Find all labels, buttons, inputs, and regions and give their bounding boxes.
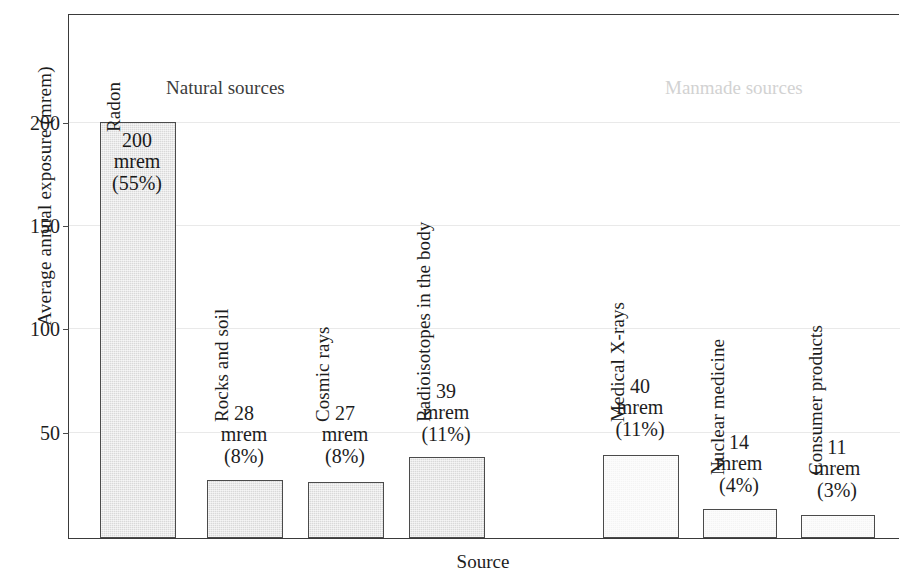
tick-100: [63, 329, 69, 330]
bar-value-pct-radon: (55%): [99, 173, 175, 194]
bar-value-unit-consumer-products: mrem: [800, 458, 874, 479]
bar-cosmic-rays[interactable]: [308, 482, 384, 538]
bar-value-pct-radioisotopes-in-the-body: (11%): [408, 424, 484, 445]
bar-consumer-products[interactable]: [801, 515, 875, 538]
bar-radioisotopes-in-the-body[interactable]: [409, 457, 485, 538]
bar-value-number-consumer-products: 11: [800, 437, 874, 458]
bar-value-radioisotopes-in-the-body: 39 mrem (11%): [408, 381, 484, 445]
x-axis-title: Source: [68, 551, 898, 568]
bar-value-number-radon: 200: [99, 130, 175, 151]
bar-value-cosmic-rays: 27 mrem (8%): [307, 403, 383, 467]
y-tick-label-100: 100: [30, 318, 60, 341]
bar-value-unit-rocks-and-soil: mrem: [206, 424, 282, 445]
tick-200: [63, 123, 69, 124]
group-header-manmade-sources: Manmade sources: [665, 77, 803, 99]
bar-value-pct-cosmic-rays: (8%): [307, 446, 383, 467]
bar-value-number-medical-x-rays: 40: [602, 376, 678, 397]
bar-value-unit-medical-x-rays: mrem: [602, 397, 678, 418]
bar-value-number-radioisotopes-in-the-body: 39: [408, 381, 484, 402]
bar-value-medical-x-rays: 40 mrem (11%): [602, 376, 678, 440]
y-axis-title: Average annual exposure (mrem): [34, 31, 56, 361]
bar-value-pct-medical-x-rays: (11%): [602, 419, 678, 440]
bar-value-rocks-and-soil: 28 mrem (8%): [206, 403, 282, 467]
bar-value-nuclear-medicine: 14 mrem (4%): [702, 432, 776, 496]
tick-50: [63, 433, 69, 434]
gridline-200: 200: [69, 122, 900, 123]
bar-nuclear-medicine[interactable]: [703, 509, 777, 538]
bar-value-number-nuclear-medicine: 14: [702, 432, 776, 453]
y-tick-label-150: 150: [30, 215, 60, 238]
tick-150: [63, 226, 69, 227]
bar-value-pct-rocks-and-soil: (8%): [206, 446, 282, 467]
y-tick-label-200: 200: [30, 112, 60, 135]
bar-label-radon: Radon: [103, 82, 125, 132]
bar-value-consumer-products: 11 mrem (3%): [800, 437, 874, 501]
bar-value-radon: 200 mrem (55%): [99, 130, 175, 194]
bar-medical-x-rays[interactable]: [603, 455, 679, 538]
bar-value-pct-consumer-products: (3%): [800, 480, 874, 501]
bar-value-unit-nuclear-medicine: mrem: [702, 453, 776, 474]
gridline-150: 150: [69, 225, 900, 226]
bar-value-unit-radon: mrem: [99, 151, 175, 172]
bar-value-number-cosmic-rays: 27: [307, 403, 383, 424]
bar-value-unit-cosmic-rays: mrem: [307, 424, 383, 445]
bar-value-pct-nuclear-medicine: (4%): [702, 475, 776, 496]
y-tick-label-50: 50: [40, 422, 60, 445]
group-header-natural-sources: Natural sources: [166, 77, 285, 99]
gridline-100: 100: [69, 328, 900, 329]
bar-value-unit-radioisotopes-in-the-body: mrem: [408, 402, 484, 423]
bar-value-number-rocks-and-soil: 28: [206, 403, 282, 424]
bar-rocks-and-soil[interactable]: [207, 480, 283, 538]
